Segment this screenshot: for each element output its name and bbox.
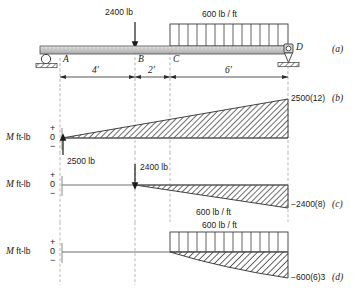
beam-body	[40, 46, 290, 54]
roller-support-A	[36, 54, 57, 67]
axis-symbol-m-d: M	[6, 246, 14, 256]
panel-b-axis-label: M ft-lb	[6, 133, 30, 143]
panel-c-secondary-label: 600 lb / ft	[196, 208, 231, 217]
panel-label-d: (d)	[332, 273, 343, 283]
point-load-label: 2400 lb	[105, 8, 133, 17]
panel-b-sign-minus: −	[50, 142, 55, 151]
dimension-label-ab: 4'	[92, 66, 99, 76]
panel-c-axis-label: M ft-lb	[6, 180, 30, 190]
panel-c-sign-minus: −	[50, 189, 55, 198]
panel-b-end-value: 2500(12)	[291, 94, 325, 103]
reaction-value-label: 2500 lb	[67, 157, 95, 166]
panel-d-end-value: −600(6)3	[291, 273, 325, 282]
panel-d-moment-area	[170, 252, 288, 278]
panel-b-moment-diagram	[60, 88, 288, 155]
panel-d-distributed-load-block	[170, 232, 288, 252]
dimension-label-bc: 2'	[148, 66, 155, 76]
node-label-a: A	[63, 55, 69, 65]
panel-c-end-value: −2400(8)	[291, 200, 325, 209]
panel-label-c: (c)	[332, 200, 343, 210]
axis-symbol-m-c: M	[6, 179, 14, 189]
node-label-b: B	[138, 55, 144, 65]
panel-d-load-label: 600 lb / ft	[202, 221, 237, 230]
panel-d-moment-diagram	[60, 222, 288, 285]
panel-a-beam-diagram	[36, 22, 299, 88]
axis-units-d: ft-lb	[16, 246, 30, 256]
axis-units-c: ft-lb	[16, 179, 30, 189]
node-label-d: D	[296, 43, 303, 53]
figure-root: 2400 lb 600 lb / ft A B C D 4' 2' 6' (a)…	[0, 0, 364, 293]
dimension-label-cd: 6'	[225, 66, 232, 76]
distributed-load-label: 600 lb / ft	[202, 10, 237, 19]
node-label-c: C	[173, 55, 179, 65]
panel-label-a: (a)	[332, 45, 343, 55]
panel-label-b: (b)	[332, 94, 343, 104]
panel-c-load-label: 2400 lb	[140, 163, 168, 172]
distributed-load-block	[170, 24, 288, 46]
panel-d-axis-label: M ft-lb	[6, 247, 30, 257]
panel-d-sign-minus: −	[50, 256, 55, 265]
panel-b-moment-area	[62, 99, 288, 138]
axis-units-b: ft-lb	[16, 132, 30, 142]
axis-symbol-m: M	[6, 132, 14, 142]
panel-d-gridlines	[60, 222, 135, 285]
panel-c-moment-area	[135, 185, 288, 208]
